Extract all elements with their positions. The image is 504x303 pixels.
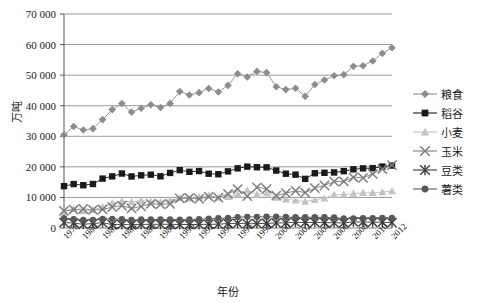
y-axis-ticks bbox=[60, 14, 64, 228]
legend-item-5[interactable]: 豆类 bbox=[412, 160, 504, 179]
legend-item-6[interactable]: 薯类 bbox=[412, 179, 504, 198]
legend-label: 稻谷 bbox=[438, 105, 463, 121]
series-2 bbox=[61, 162, 395, 189]
legend-item-4[interactable]: 玉米 bbox=[412, 141, 504, 160]
legend-label: 小麦 bbox=[438, 124, 463, 140]
legend-item-2[interactable]: 稻谷 bbox=[412, 103, 504, 122]
legend-label: 豆类 bbox=[438, 162, 463, 178]
circle-icon bbox=[412, 182, 438, 196]
square-icon bbox=[412, 106, 438, 120]
series-3 bbox=[60, 186, 396, 214]
legend-label: 玉米 bbox=[438, 143, 463, 159]
x-axis-title: 年份 bbox=[64, 283, 392, 299]
series-1 bbox=[60, 44, 396, 139]
diamond-icon bbox=[412, 87, 438, 101]
legend-label: 薯类 bbox=[438, 181, 463, 197]
cross-icon bbox=[412, 144, 438, 158]
legend-item-1[interactable]: 粮食 bbox=[412, 84, 504, 103]
chart-container: 万吨 010 00020 00030 00040 00050 00060 000… bbox=[0, 0, 504, 303]
chart-legend: 粮食稻谷小麦玉米豆类薯类 bbox=[412, 84, 504, 198]
asterisk-icon bbox=[412, 163, 438, 177]
triangle-icon bbox=[412, 125, 438, 139]
legend-label: 粮食 bbox=[438, 86, 463, 102]
legend-item-3[interactable]: 小麦 bbox=[412, 122, 504, 141]
